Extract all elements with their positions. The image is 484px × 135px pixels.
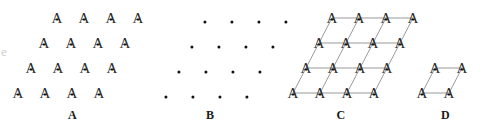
motif-a: A [313,36,326,51]
panel-a: AAAAAAAAAAAAAAAAA [0,0,145,135]
lattice-point [421,93,424,96]
panel-label-c: C [275,108,407,123]
motif-a: A [132,11,145,26]
motif-a: A [341,86,354,101]
motif-a: A [353,11,366,26]
lattice-point [70,43,73,46]
lattice-point [217,45,220,48]
lattice-point [218,95,221,98]
lattice-point [359,68,362,71]
lattice-point [230,20,233,23]
motif-a: A [39,86,52,101]
lattice-point [84,68,87,71]
lattice-point [56,18,59,21]
lattice-point [203,20,206,23]
lattice-point [372,43,375,46]
motif-a: A [416,86,429,101]
lattice-point [318,43,321,46]
lattice-point [399,43,402,46]
lattice-point [97,43,100,46]
lattice-point [461,68,464,71]
lattice-point [111,68,114,71]
lattice-point [57,68,60,71]
panel-d-stage: AAAA [407,0,484,108]
panel-b-stage [145,0,275,108]
lattice-point [258,70,261,73]
motif-a: A [52,61,65,76]
lattice-point [332,68,335,71]
motif-a: A [78,11,91,26]
lattice-point [83,18,86,21]
motif-a: A [394,36,407,51]
panel-c-stage: AAAAAAAAAAAAAAAA [275,0,407,108]
motif-a: A [326,11,339,26]
motif-a: A [65,36,78,51]
lattice-point [331,18,334,21]
lattice-point [386,68,389,71]
lattice-point [17,93,20,96]
panel-b: B [145,0,275,135]
panel-d: AAAAD [407,0,484,135]
motif-a: A [38,36,51,51]
motif-a: A [340,36,353,51]
lattice-point [231,70,234,73]
panel-label-b: B [145,108,275,123]
lattice-point [124,43,127,46]
lattice-point [190,45,193,48]
lattice-point [30,68,33,71]
lattice-point [358,18,361,21]
lattice-point [177,70,180,73]
panel-a-stage: AAAAAAAAAAAAAAAA [0,0,145,108]
lattice-point [191,95,194,98]
motif-a: A [51,11,64,26]
motif-a: A [367,36,380,51]
motif-a: A [287,86,300,101]
lattice-point [43,43,46,46]
lattice-point [204,70,207,73]
panel-label-d: D [407,108,484,123]
motif-a: A [327,61,340,76]
motif-a: A [300,61,313,76]
motif-a: A [381,61,394,76]
motif-a: A [66,86,79,101]
crystal-lattice-figure: e AAAAAAAAAAAAAAAAABAAAAAAAAAAAAAAAACAAA… [0,0,484,135]
motif-a: A [429,61,442,76]
motif-a: A [314,86,327,101]
motif-a: A [119,36,132,51]
lattice-point [385,18,388,21]
motif-a: A [106,61,119,76]
motif-a: A [12,86,25,101]
lattice-point [345,43,348,46]
lattice-point [373,93,376,96]
lattice-point [257,20,260,23]
motif-a: A [380,11,393,26]
lattice-point [305,68,308,71]
lattice-point [319,93,322,96]
lattice-point [346,93,349,96]
motif-a: A [354,61,367,76]
lattice-point [98,93,101,96]
lattice-point [244,45,247,48]
motif-a: A [105,11,118,26]
lattice-point [137,18,140,21]
lattice-point [434,68,437,71]
lattice-point [110,18,113,21]
motif-a: A [368,86,381,101]
panel-c: AAAAAAAAAAAAAAAAC [275,0,407,135]
lattice-point [448,93,451,96]
lattice-point [44,93,47,96]
motif-a: A [93,86,106,101]
motif-a: A [79,61,92,76]
motif-a: A [92,36,105,51]
panel-label-a: A [0,108,145,123]
lattice-point [164,95,167,98]
lattice-point [245,95,248,98]
motif-a: A [443,86,456,101]
motif-a: A [25,61,38,76]
lattice-point [292,93,295,96]
motif-a: A [456,61,469,76]
lattice-point [71,93,74,96]
